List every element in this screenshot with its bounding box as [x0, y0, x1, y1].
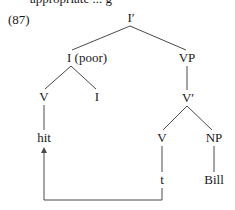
node-trace: t	[160, 173, 164, 187]
example-number: (87)	[8, 13, 30, 27]
tree-branches	[0, 0, 235, 210]
branch-vbar-v	[163, 106, 187, 130]
node-v-left: V	[39, 90, 48, 104]
branch-vbar-np	[187, 106, 212, 130]
node-vp: VP	[179, 51, 196, 65]
syntax-tree-diagram: appropriate ... g	[0, 0, 235, 210]
node-i-bar: I′	[127, 11, 134, 25]
node-bill: Bill	[204, 173, 224, 187]
branch-ibar-i	[72, 26, 130, 50]
node-v-right: V	[157, 131, 166, 145]
branch-ibar-vp	[130, 26, 186, 50]
node-i-poor: I (poor)	[67, 51, 107, 65]
node-i-head: I	[95, 90, 99, 104]
node-hit: hit	[37, 131, 51, 145]
movement-arrow	[44, 150, 162, 200]
node-np: NP	[206, 131, 223, 145]
branch-i-v	[45, 66, 71, 89]
node-v-bar: V′	[182, 91, 194, 105]
branch-i-i	[71, 66, 96, 89]
